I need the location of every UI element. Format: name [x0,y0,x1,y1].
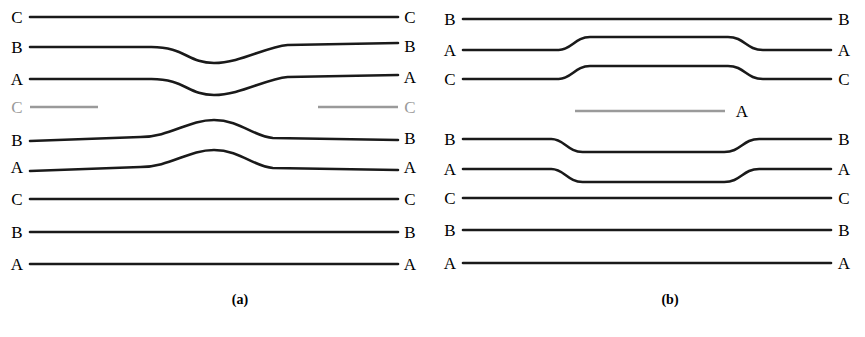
panel-b-left-label-1: A [441,42,459,59]
panel-b-right-label-5: A [835,161,853,178]
panel-b-left-label-5: A [441,161,459,178]
panel-b-left-label-0: B [441,11,459,28]
panel-a-right-label-1: B [401,38,419,55]
panel-b-right-label-2: C [835,71,853,88]
panel-a-right-label-5: A [401,159,419,176]
panel-a-right-label-3: C [401,99,419,116]
panel-b-left-label-6: C [441,190,459,207]
panel-a-right-label-0: C [401,9,419,26]
panel-a-right-label-6: C [401,191,419,208]
panel-b-right-label-1: A [835,42,853,59]
panel-b-right-label-0: B [835,11,853,28]
panel-a-right-label-4: B [401,130,419,147]
panel-a-right-label-2: A [401,69,419,86]
panel-a-left-label-3: C [8,99,26,116]
panel-line-a-1 [30,43,398,63]
panel-a-left-label-5: A [8,159,26,176]
panel-line-a-4 [30,120,398,141]
panel-b-right-label-8: A [835,255,853,272]
panel-a-left-label-0: C [8,9,26,26]
panel-a-lines [0,0,432,290]
panel-a-left-label-4: B [8,132,26,149]
panel-a-left-label-8: A [8,256,26,273]
panel-a-left-label-7: B [8,224,26,241]
panel-b-left-label-4: B [441,131,459,148]
panel-b-right-label-4: B [835,131,853,148]
panel-b-left-label-8: A [441,255,459,272]
panel-b-caption: (b) [640,292,700,308]
panel-a-right-label-7: B [401,224,419,241]
panel-b-left-label-2: C [441,71,459,88]
panel-b-gray-label-a: A [733,103,751,120]
panel-a: C B A C B A C B A C B A C B A C B A [0,0,432,290]
figure-root: C B A C B A C B A C B A C B A C B A B A … [0,0,865,337]
panel-b: B A C B A C B A B A C A B A C B A [433,0,865,290]
panel-b-right-label-7: B [835,222,853,239]
figure-caption-cropped [0,326,865,337]
panel-b-right-label-6: C [835,190,853,207]
panel-a-left-label-2: A [8,71,26,88]
panel-a-right-label-8: A [401,256,419,273]
panel-a-left-label-1: B [8,39,26,56]
panel-line-b-2 [463,66,831,79]
panel-line-b-4 [463,139,831,152]
panel-b-left-label-7: B [441,222,459,239]
panel-line-b-5 [463,169,831,182]
panel-a-left-label-6: C [8,191,26,208]
panel-line-a-5 [30,150,398,171]
panel-line-a-2 [30,75,398,95]
panel-a-caption: (a) [210,292,270,308]
panel-b-lines [433,0,865,290]
panel-line-b-1 [463,37,831,50]
